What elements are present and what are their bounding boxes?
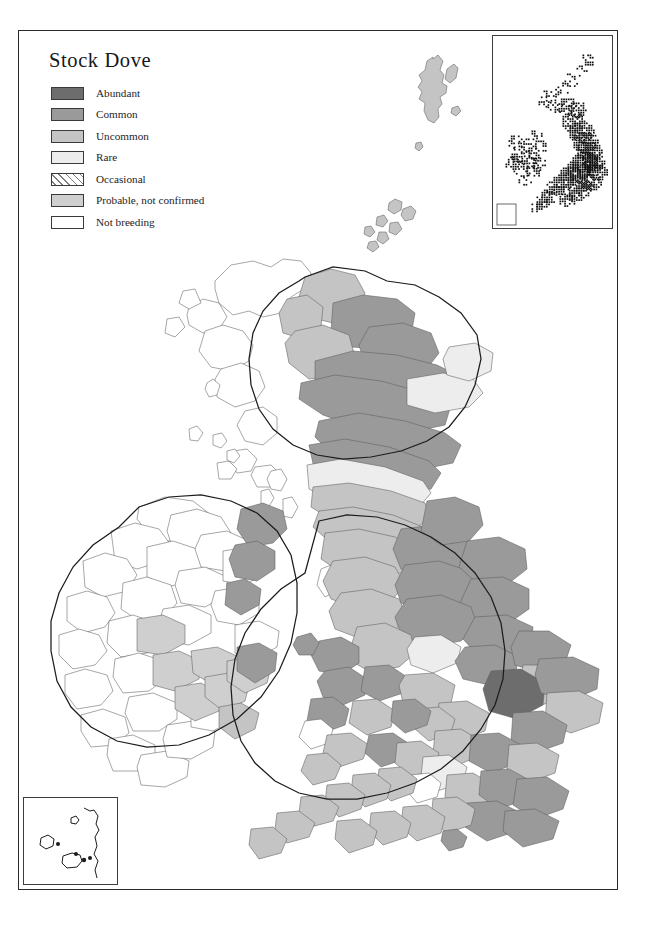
legend-item-rare[interactable]: Rare bbox=[33, 148, 263, 169]
legend-item-abundant[interactable]: Abundant bbox=[33, 83, 263, 104]
breeding-distribution-dot-map-inset[interactable] bbox=[492, 35, 613, 229]
legend-item-not-breeding[interactable]: Not breeding bbox=[33, 212, 263, 233]
legend-item-common[interactable]: Common bbox=[33, 105, 263, 126]
legend-swatch-uncommon bbox=[51, 130, 84, 143]
legend-label-not-breeding: Not breeding bbox=[96, 217, 155, 228]
legend-item-uncommon[interactable]: Uncommon bbox=[33, 126, 263, 147]
island-dot-minquiers bbox=[82, 858, 86, 862]
legend-swatch-probable bbox=[51, 194, 84, 207]
legend-swatch-abundant bbox=[51, 87, 84, 100]
legend-swatch-rare bbox=[51, 151, 84, 164]
ireland-regions bbox=[59, 497, 287, 787]
legend-label-uncommon: Uncommon bbox=[96, 131, 149, 142]
island-dot-chausey bbox=[88, 856, 92, 860]
island-dot-ecrehous bbox=[74, 852, 78, 856]
dot-map-svg bbox=[493, 36, 613, 229]
legend-panel: Stock Dove Abundant Common Uncommon Rare… bbox=[33, 49, 263, 234]
legend-label-common: Common bbox=[96, 109, 138, 120]
legend-swatch-occasional bbox=[51, 173, 84, 186]
legend-item-probable[interactable]: Probable, not confirmed bbox=[33, 191, 263, 212]
legend-label-probable: Probable, not confirmed bbox=[96, 195, 204, 206]
channel-islands-svg bbox=[24, 798, 118, 885]
map-page-frame: Stock Dove Abundant Common Uncommon Rare… bbox=[18, 30, 618, 890]
legend-label-occasional: Occasional bbox=[96, 174, 146, 185]
legend-label-rare: Rare bbox=[96, 152, 117, 163]
island-dot-herm bbox=[56, 842, 60, 846]
legend-item-occasional[interactable]: Occasional bbox=[33, 169, 263, 190]
map-title: Stock Dove bbox=[49, 49, 263, 72]
legend-swatch-not-breeding bbox=[51, 216, 84, 229]
island-guernsey bbox=[40, 835, 54, 849]
shetland-orkney-group bbox=[364, 55, 461, 252]
legend-swatch-common bbox=[51, 108, 84, 121]
channel-islands-inset[interactable] bbox=[23, 797, 118, 885]
legend-label-abundant: Abundant bbox=[96, 88, 140, 99]
